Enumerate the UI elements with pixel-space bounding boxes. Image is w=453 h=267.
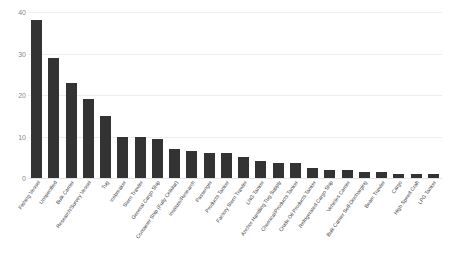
bar — [221, 153, 232, 178]
bar-slot — [390, 12, 407, 178]
x-tick-label: Cargo — [391, 180, 403, 195]
x-label-slot: Beam Trawler — [373, 179, 390, 251]
bar — [186, 151, 197, 178]
x-label-slot: Research/Survey Vessel — [80, 179, 97, 251]
bar-slot — [304, 12, 321, 178]
bar-slot — [183, 12, 200, 178]
bar — [342, 170, 353, 178]
bar — [376, 172, 387, 178]
bar — [255, 161, 266, 178]
x-axis-category-labels: Fishing VesselUnspecifiedBulk CarrierRes… — [28, 179, 442, 251]
y-tick-label-20: 20 — [4, 92, 26, 99]
bar-slot — [408, 12, 425, 178]
bar — [152, 139, 163, 178]
y-tick-label-10: 10 — [4, 133, 26, 140]
y-axis: 010203040 — [0, 12, 26, 178]
y-tick-label-40: 40 — [4, 9, 26, 16]
bar-slot — [356, 12, 373, 178]
bar — [273, 163, 284, 178]
bar — [393, 174, 404, 178]
bar — [31, 20, 42, 178]
plot-area — [28, 12, 442, 178]
bar — [169, 149, 180, 178]
x-tick-label: Tug — [101, 180, 110, 190]
bar — [359, 172, 370, 178]
bar-chart-figure: 010203040 Fishing VesselUnspecifiedBulk … — [0, 0, 453, 267]
bar-slot — [218, 12, 235, 178]
x-label-slot: LPG Tanker — [425, 179, 442, 251]
bar — [428, 174, 439, 178]
x-label-slot: Factory Stern Trawler — [235, 179, 252, 251]
x-label-slot: Refrigerated Cargo Ship — [321, 179, 338, 251]
bar — [324, 170, 335, 178]
bar-slot — [270, 12, 287, 178]
bar-slot — [114, 12, 131, 178]
bar-slot — [63, 12, 80, 178]
bar — [411, 174, 422, 178]
x-label-slot: Fishing Vessel — [28, 179, 45, 251]
y-tick-label-0: 0 — [4, 175, 26, 182]
bar-slot — [321, 12, 338, 178]
bar-slot — [339, 12, 356, 178]
bar — [66, 83, 77, 178]
bar — [83, 99, 94, 178]
bar-slot — [149, 12, 166, 178]
x-label-slot: Unspecified — [45, 179, 62, 251]
bar-slot — [132, 12, 149, 178]
x-label-slot: Passenger — [201, 179, 218, 251]
bar-slot — [28, 12, 45, 178]
bar — [135, 137, 146, 179]
bar-slot — [166, 12, 183, 178]
bar-slot — [97, 12, 114, 178]
x-label-slot: Cargo — [390, 179, 407, 251]
x-label-slot: High Speed Craft — [408, 179, 425, 251]
x-label-slot: Tug — [97, 179, 114, 251]
bar-slot — [80, 12, 97, 178]
bar — [48, 58, 59, 178]
bar-slot — [287, 12, 304, 178]
x-label-slot: Institute/Research — [183, 179, 200, 251]
x-label-slot: Bulk Carrier Self-Discharging — [356, 179, 373, 251]
bar-slot — [201, 12, 218, 178]
bar — [290, 163, 301, 178]
bar-slot — [45, 12, 62, 178]
bar-slot — [235, 12, 252, 178]
bar — [238, 157, 249, 178]
bar — [307, 168, 318, 178]
x-label-slot: Icebreaker — [114, 179, 131, 251]
bar-slot — [425, 12, 442, 178]
x-tick-label: Fishing Vessel — [17, 180, 40, 210]
bar — [100, 116, 111, 178]
bar — [117, 137, 128, 179]
bar-series — [28, 12, 442, 178]
bar — [204, 153, 215, 178]
bar-slot — [373, 12, 390, 178]
bar-slot — [252, 12, 269, 178]
y-tick-label-30: 30 — [4, 50, 26, 57]
